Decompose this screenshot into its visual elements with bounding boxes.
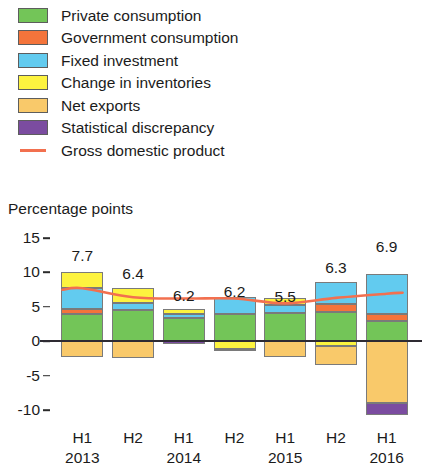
bar-value-label: 7.7 [72, 247, 94, 265]
x-axis-year-label: 2016 [369, 448, 403, 468]
x-axis-half-label: H1 [275, 429, 295, 446]
x-axis-half-label: H1 [377, 429, 397, 446]
legend-item: Fixed investment [18, 49, 348, 72]
legend-item-label: Gross domestic product [61, 143, 225, 159]
chart-root: Private consumptionGovernment consumptio… [0, 0, 424, 468]
legend-item: Net exports [18, 94, 348, 117]
x-axis-half-label: H2 [225, 429, 245, 446]
x-axis-year-label: 2014 [167, 448, 201, 468]
legend-item: Change in inventories [18, 72, 348, 95]
x-axis-label: H2 [123, 428, 143, 448]
legend-color-swatch-icon [18, 30, 48, 45]
x-axis-year-label: 2015 [268, 448, 302, 468]
gdp-line-series [0, 228, 424, 423]
bar-value-label: 6.9 [376, 238, 398, 256]
y-axis-title: Percentage points [8, 200, 133, 218]
legend-item-label: Net exports [61, 98, 140, 114]
legend-item: Statistical discrepancy [18, 117, 348, 140]
x-axis-labels: H12013H2H12014H2H12015H2H12016 [0, 424, 424, 468]
legend-item-label: Change in inventories [61, 75, 211, 91]
legend-item: Government consumption [18, 27, 348, 50]
legend-item: Private consumption [18, 4, 348, 27]
legend-item: Gross domestic product [18, 139, 348, 162]
legend-item-label: Fixed investment [61, 53, 178, 69]
bar-value-label: 6.2 [173, 287, 195, 305]
x-axis-half-label: H2 [123, 429, 143, 446]
bar-value-label: 5.5 [274, 288, 296, 306]
x-axis-half-label: H2 [326, 429, 346, 446]
x-axis-label: H12014 [167, 428, 201, 468]
x-axis-label: H2 [225, 428, 245, 448]
bar-value-label: 6.3 [325, 259, 347, 277]
legend-color-swatch-icon [18, 8, 48, 23]
legend-line-swatch-icon [18, 143, 48, 158]
legend-item-label: Private consumption [61, 8, 201, 24]
chart-legend: Private consumptionGovernment consumptio… [18, 4, 348, 162]
x-axis-label: H12015 [268, 428, 302, 468]
x-axis-year-label: 2013 [65, 448, 99, 468]
legend-color-swatch-icon [18, 120, 48, 135]
x-axis-label: H12013 [65, 428, 99, 468]
legend-color-swatch-icon [18, 53, 48, 68]
legend-item-label: Statistical discrepancy [61, 120, 214, 136]
bar-value-label: 6.2 [224, 283, 246, 301]
legend-color-swatch-icon [18, 98, 48, 113]
legend-item-label: Government consumption [61, 30, 238, 46]
x-axis-half-label: H1 [174, 429, 194, 446]
legend-color-swatch-icon [18, 75, 48, 90]
x-axis-half-label: H1 [72, 429, 92, 446]
plot-area: 151050-5-10 7.76.46.26.25.56.36.9 [0, 228, 424, 423]
x-axis-label: H12016 [369, 428, 403, 468]
x-axis-label: H2 [326, 428, 346, 448]
bar-value-label: 6.4 [122, 265, 144, 283]
